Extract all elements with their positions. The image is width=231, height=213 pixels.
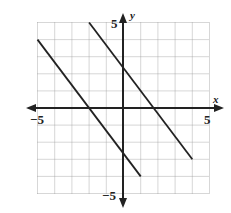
y-min-label: −5 (102, 188, 116, 203)
x-axis-right-arrow-icon (214, 104, 224, 112)
y-axis (119, 13, 127, 208)
coordinate-plane: x y −5 5 5 −5 (0, 0, 231, 213)
y-axis-up-arrow-icon (119, 13, 127, 23)
y-axis-label: y (128, 9, 135, 21)
x-axis (26, 104, 224, 112)
x-max-label: 5 (204, 112, 211, 127)
plotted-lines (38, 23, 193, 177)
y-axis-down-arrow-icon (119, 198, 127, 208)
x-axis-left-arrow-icon (26, 104, 36, 112)
x-min-label: −5 (30, 112, 44, 127)
y-max-label: 5 (111, 16, 118, 31)
x-axis-label: x (212, 93, 219, 105)
